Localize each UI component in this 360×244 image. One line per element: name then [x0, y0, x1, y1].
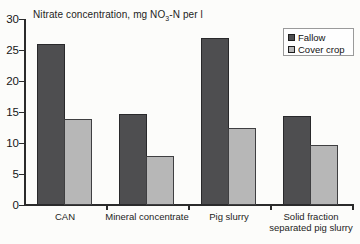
x-tick-mark-1: [106, 206, 108, 210]
category-label-pig-slurry: Pig slurry: [183, 211, 275, 222]
y-tick-label-15: 15: [0, 106, 19, 118]
y-tick-mark-0: [19, 205, 24, 207]
y-tick-mark-20: [19, 81, 24, 83]
y-tick-label-30: 30: [0, 13, 19, 25]
bar-fallow-solid-fraction-separated-pig-slurry: [283, 116, 311, 205]
chart-title-suffix: -N per l: [169, 9, 203, 20]
y-axis: [24, 19, 26, 206]
bar-cover-crop-mineral-concentrate: [146, 156, 174, 205]
x-tick-mark-3: [270, 206, 272, 210]
legend: Fallow Cover crop: [283, 28, 354, 56]
legend-label-fallow: Fallow: [298, 32, 325, 43]
y-tick-mark-15: [19, 112, 24, 114]
y-tick-mark-10: [19, 143, 24, 145]
y-tick-label-20: 20: [0, 75, 19, 87]
y-tick-mark-30: [19, 19, 24, 21]
legend-label-cover-crop: Cover crop: [298, 44, 344, 55]
x-tick-mark-4: [352, 206, 354, 210]
chart-title: Nitrate concentration, mg NO3-N per l: [33, 9, 203, 22]
bar-fallow-pig-slurry: [201, 38, 229, 205]
bar-cover-crop-pig-slurry: [228, 128, 256, 205]
chart: Nitrate concentration, mg NO3-N per l 05…: [0, 0, 360, 244]
bar-cover-crop-can: [64, 119, 92, 205]
category-label-can: CAN: [19, 211, 111, 222]
y-tick-label-5: 5: [0, 168, 19, 180]
category-label-mineral-concentrate: Mineral concentrate: [101, 211, 193, 222]
category-label-solid-fraction-separated-pig-slurry: Solid fraction separated pig slurry: [265, 211, 357, 234]
cover-crop-series-swatch-icon: [288, 46, 295, 53]
y-tick-label-25: 25: [0, 44, 19, 56]
legend-item-cover-crop: Cover crop: [288, 43, 353, 55]
x-tick-mark-2: [188, 206, 190, 210]
legend-item-fallow: Fallow: [288, 31, 353, 43]
chart-title-prefix: Nitrate concentration, mg NO: [33, 9, 165, 20]
y-tick-mark-25: [19, 50, 24, 52]
bar-fallow-mineral-concentrate: [119, 114, 147, 205]
fallow-series-swatch-icon: [288, 34, 295, 41]
y-tick-label-0: 0: [0, 199, 19, 211]
y-tick-label-10: 10: [0, 137, 19, 149]
y-tick-mark-5: [19, 174, 24, 176]
bar-cover-crop-solid-fraction-separated-pig-slurry: [310, 145, 338, 205]
bar-fallow-can: [37, 44, 65, 205]
